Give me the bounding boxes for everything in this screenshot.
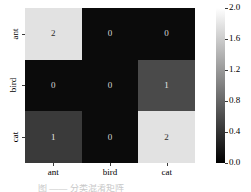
y-tick-label-cat: cat — [10, 132, 20, 143]
heatmap-cell: 0 — [138, 8, 195, 60]
heatmap-cell: 1 — [138, 60, 195, 112]
figure-caption-text: 图 —— 分类混淆矩阵 — [38, 184, 124, 192]
heatmap-cell-value: 1 — [51, 133, 56, 142]
heatmap-cell-value: 2 — [164, 133, 169, 142]
x-tick-mark-ant — [53, 163, 54, 166]
x-tick-mark-bird — [110, 163, 111, 166]
confusion-matrix-figure: ant bird cat 2 0 0 0 0 — [0, 0, 251, 192]
heatmap-plot-area: 2 0 0 0 0 1 1 0 2 — [25, 8, 195, 163]
colorbar-gradient — [216, 8, 225, 163]
y-tick-bird: bird — [0, 60, 25, 112]
heatmap-cell: 1 — [25, 111, 82, 163]
colorbar-tick-label: 1.6 — [229, 33, 240, 44]
colorbar-tick-labels: 2.0 1.6 1.2 0.8 0.4 0.0 — [225, 8, 251, 163]
heatmap-cell: 2 — [25, 8, 82, 60]
colorbar-tick-label: 0.8 — [229, 95, 240, 106]
x-tick-cat: cat — [138, 163, 195, 183]
x-tick-label-ant: ant — [25, 167, 82, 177]
heatmap-cell-value: 1 — [164, 81, 169, 90]
y-tick-ant: ant — [0, 8, 25, 60]
colorbar-tick-mark — [225, 70, 228, 71]
colorbar-tick-label: 0.0 — [229, 157, 240, 168]
heatmap-grid: 2 0 0 0 0 1 1 0 2 — [25, 8, 195, 163]
colorbar-tick-label: 0.4 — [229, 126, 240, 137]
colorbar-tick-label: 2.0 — [229, 2, 240, 13]
heatmap-cell: 2 — [138, 111, 195, 163]
colorbar — [216, 8, 225, 163]
colorbar-tick-mark — [225, 39, 228, 40]
colorbar-tick-mark — [225, 8, 228, 9]
colorbar-tick-mark — [225, 132, 228, 133]
colorbar-tick-mark — [225, 163, 228, 164]
x-tick-label-bird: bird — [82, 167, 139, 177]
x-tick-mark-cat — [167, 163, 168, 166]
heatmap-cell-value: 0 — [108, 133, 113, 142]
y-tick-label-bird: bird — [8, 78, 18, 93]
x-axis-tick-labels: ant bird cat — [25, 163, 195, 183]
heatmap-cell-value: 2 — [51, 29, 56, 38]
x-tick-bird: bird — [82, 163, 139, 183]
colorbar-tick-mark — [225, 101, 228, 102]
colorbar-tick-label: 1.2 — [229, 64, 240, 75]
heatmap-cell-value: 0 — [51, 81, 56, 90]
y-tick-cat: cat — [0, 111, 25, 163]
heatmap-cell: 0 — [82, 111, 139, 163]
x-tick-ant: ant — [25, 163, 82, 183]
figure-caption-strip: 图 —— 分类混淆矩阵 — [0, 184, 251, 192]
heatmap-cell-value: 0 — [108, 29, 113, 38]
y-tick-label-ant: ant — [10, 28, 20, 39]
x-tick-label-cat: cat — [138, 167, 195, 177]
heatmap-cell: 0 — [82, 8, 139, 60]
heatmap-cell: 0 — [82, 60, 139, 112]
heatmap-cell: 0 — [25, 60, 82, 112]
y-axis-tick-labels: ant bird cat — [0, 8, 25, 163]
heatmap-cell-value: 0 — [108, 81, 113, 90]
heatmap-cell-value: 0 — [164, 29, 169, 38]
